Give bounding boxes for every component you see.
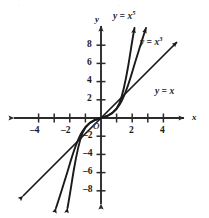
y-tick-label-4: 4 <box>87 76 92 86</box>
curve-label-y-equals-x: y = x <box>155 87 174 97</box>
origin-label: O <box>93 122 100 131</box>
curve-label-x5-exponent: 5 <box>132 9 135 16</box>
page-artifact-right: . <box>118 0 120 8</box>
y-tick-label-6: 6 <box>87 58 92 68</box>
curve-label-x3-base: y = x <box>140 37 159 47</box>
curve-label-x5-base: y = x <box>113 11 132 21</box>
y-tick-label-8: 8 <box>87 40 92 50</box>
y-tick-label-neg4: –4 <box>83 149 93 159</box>
curve-label-y-equals-x-fifth: y = x5 <box>113 12 135 22</box>
curve-label-y-equals-x-cubed: y = x3 <box>140 38 162 48</box>
y-tick-label-2: 2 <box>87 94 92 104</box>
y-tick-label-neg8: –8 <box>83 185 93 195</box>
curve-label-x3-exponent: 3 <box>159 35 162 42</box>
x-tick-label-neg4: –4 <box>30 126 40 136</box>
y-axis-label: y <box>95 15 99 24</box>
page-artifact-left: . <box>18 0 20 8</box>
x-tick-label-2: 2 <box>129 126 134 136</box>
x-tick-label-4: 4 <box>160 126 165 136</box>
x-axis-label: x <box>192 113 197 122</box>
y-tick-label-neg6: –6 <box>83 167 93 177</box>
x-tick-label-neg2: –2 <box>61 126 71 136</box>
graph-figure: . . y x O –4 –2 2 4 8 6 4 2 –2 –4 –6 –8 … <box>0 0 209 218</box>
coordinate-plane-svg <box>0 0 209 218</box>
y-tick-label-neg2: –2 <box>83 131 93 141</box>
